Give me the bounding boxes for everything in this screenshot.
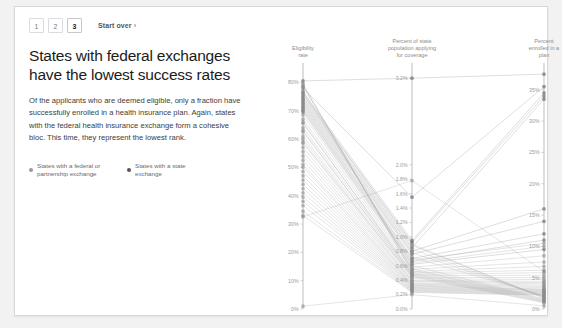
svg-text:0%: 0% bbox=[291, 306, 299, 312]
svg-text:for coverage: for coverage bbox=[396, 52, 427, 58]
parallel-coordinates-chart: 0%10%20%30%40%50%60%70%80%0.0%0.2%0.4%0.… bbox=[265, 15, 562, 315]
svg-text:1.4%: 1.4% bbox=[396, 205, 408, 211]
legend-label: States with a state exchange bbox=[135, 162, 211, 178]
svg-text:2.0%: 2.0% bbox=[396, 162, 408, 168]
svg-text:enrolled in a: enrolled in a bbox=[529, 45, 560, 51]
svg-text:1.8%: 1.8% bbox=[396, 176, 408, 182]
legend-swatch-icon bbox=[29, 168, 33, 172]
chart-links bbox=[303, 74, 544, 306]
svg-text:20%: 20% bbox=[529, 181, 540, 187]
svg-text:20%: 20% bbox=[288, 249, 299, 255]
svg-text:25%: 25% bbox=[529, 149, 540, 155]
svg-text:0.8%: 0.8% bbox=[396, 248, 408, 254]
legend-label: States with a federal or partnership exc… bbox=[37, 162, 113, 178]
svg-text:0.6%: 0.6% bbox=[396, 263, 408, 269]
left-panel: 1 2 3 Start over› States with federal ex… bbox=[29, 17, 261, 178]
page-button-1[interactable]: 1 bbox=[29, 18, 44, 33]
svg-text:5%: 5% bbox=[532, 275, 540, 281]
chevron-right-icon: › bbox=[134, 22, 136, 29]
svg-text:Percent: Percent bbox=[534, 38, 554, 44]
svg-text:35%: 35% bbox=[529, 87, 540, 93]
svg-text:10%: 10% bbox=[288, 278, 299, 284]
start-over-label: Start over bbox=[98, 22, 132, 29]
svg-text:Eligibility: Eligibility bbox=[292, 45, 314, 51]
svg-text:rate: rate bbox=[298, 52, 308, 58]
chart-axis-labels: EligibilityratePercent of statepopulatio… bbox=[292, 38, 560, 58]
page-title: States with federal exchanges have the l… bbox=[29, 46, 261, 84]
svg-text:0%: 0% bbox=[532, 306, 540, 312]
svg-text:40%: 40% bbox=[288, 193, 299, 199]
description-text: Of the applicants who are deemed eligibl… bbox=[29, 95, 245, 145]
svg-text:3.2%: 3.2% bbox=[396, 75, 408, 81]
legend-item-state[interactable]: States with a state exchange bbox=[127, 162, 211, 178]
svg-text:30%: 30% bbox=[288, 221, 299, 227]
svg-text:15%: 15% bbox=[529, 212, 540, 218]
chart-legend: States with a federal or partnership exc… bbox=[29, 162, 261, 178]
svg-text:1.2%: 1.2% bbox=[396, 219, 408, 225]
chart-svg: 0%10%20%30%40%50%60%70%80%0.0%0.2%0.4%0.… bbox=[265, 15, 562, 315]
legend-item-federal[interactable]: States with a federal or partnership exc… bbox=[29, 162, 113, 178]
start-over-link[interactable]: Start over› bbox=[98, 22, 136, 29]
story-card: 1 2 3 Start over› States with federal ex… bbox=[14, 6, 548, 316]
svg-text:1.0%: 1.0% bbox=[396, 234, 408, 240]
svg-text:Percent of state: Percent of state bbox=[392, 38, 431, 44]
svg-text:plan: plan bbox=[539, 52, 550, 58]
svg-text:0.0%: 0.0% bbox=[396, 306, 408, 312]
svg-text:1.6%: 1.6% bbox=[396, 191, 408, 197]
svg-text:0.2%: 0.2% bbox=[396, 291, 408, 297]
page-button-3[interactable]: 3 bbox=[67, 18, 82, 33]
svg-text:50%: 50% bbox=[288, 164, 299, 170]
svg-text:10%: 10% bbox=[529, 243, 540, 249]
svg-text:30%: 30% bbox=[529, 118, 540, 124]
pagination[interactable]: 1 2 3 Start over› bbox=[29, 17, 261, 33]
page-button-2[interactable]: 2 bbox=[48, 18, 63, 33]
svg-text:70%: 70% bbox=[288, 108, 299, 114]
screenshot-root: 1 2 3 Start over› States with federal ex… bbox=[0, 0, 562, 328]
svg-text:0.4%: 0.4% bbox=[396, 277, 408, 283]
legend-swatch-icon bbox=[127, 168, 131, 172]
svg-text:population applying: population applying bbox=[388, 45, 436, 51]
svg-text:80%: 80% bbox=[288, 79, 299, 85]
svg-text:60%: 60% bbox=[288, 136, 299, 142]
